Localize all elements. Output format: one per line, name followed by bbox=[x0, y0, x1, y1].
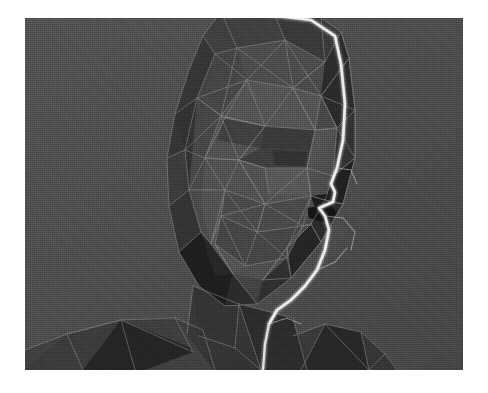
render-plate bbox=[25, 18, 463, 370]
cheekbone-lit bbox=[265, 168, 311, 196]
wireframe-head-render bbox=[25, 18, 463, 370]
artboard: A low-polygon 3D wireframe rendering of … bbox=[0, 0, 488, 393]
eye-socket-deep bbox=[273, 150, 307, 166]
